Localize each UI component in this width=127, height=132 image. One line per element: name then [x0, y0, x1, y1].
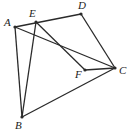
segments	[15, 14, 115, 117]
point-C	[113, 66, 116, 69]
point-A	[13, 25, 16, 28]
vertices	[13, 12, 116, 118]
segment-EB	[22, 22, 36, 117]
label-B: B	[15, 119, 22, 131]
segment-DC	[81, 14, 115, 68]
point-E	[34, 20, 37, 23]
geometry-diagram: AEDCFB	[0, 0, 127, 132]
point-F	[83, 68, 86, 71]
point-D	[79, 12, 82, 15]
label-D: D	[77, 0, 86, 11]
segment-AB	[15, 27, 22, 117]
label-A: A	[3, 16, 11, 28]
segment-BC	[22, 68, 115, 117]
segment-AD	[15, 14, 81, 27]
segment-EF	[36, 22, 85, 70]
label-C: C	[119, 64, 127, 76]
label-E: E	[28, 7, 36, 19]
label-F: F	[74, 68, 82, 80]
